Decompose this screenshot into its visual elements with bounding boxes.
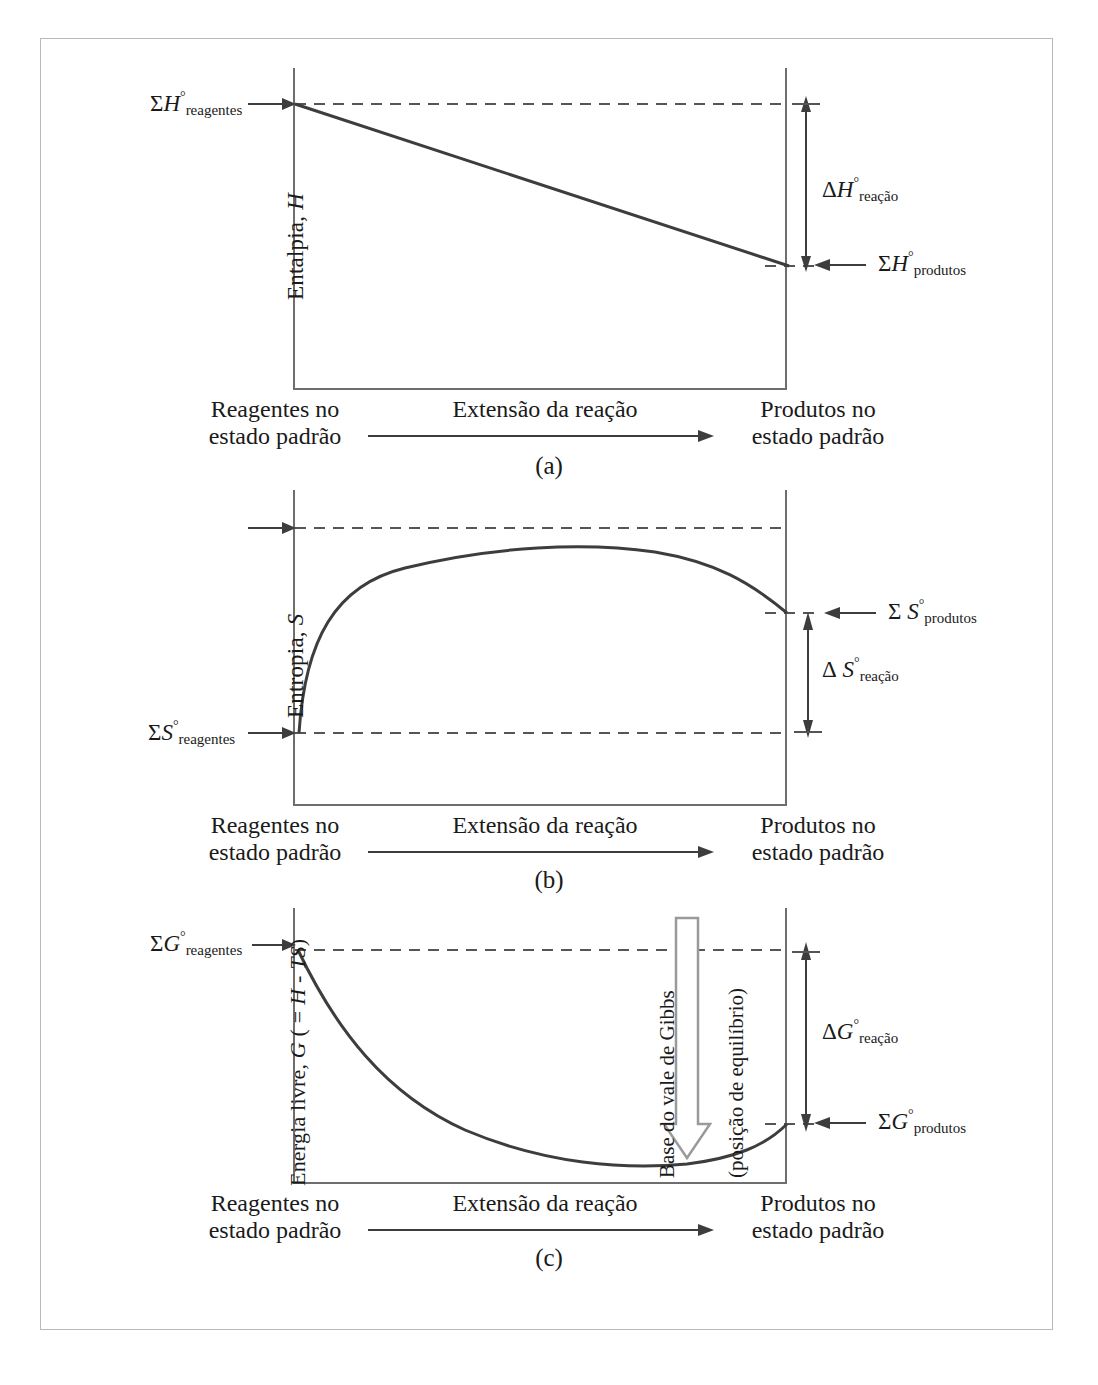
plot-lines-b	[295, 490, 789, 806]
panel-letter-c: (c)	[0, 1244, 1098, 1272]
panel-letter-b: (b)	[0, 866, 1098, 894]
plot-area-a	[293, 68, 787, 390]
sum-g-reagents-label: ΣG°reagentes	[150, 930, 242, 957]
y-axis-label-a: Entalpia, H	[283, 193, 309, 300]
plot-area-b	[293, 490, 787, 806]
sum-h-reagents-label: ΣH°reagentes	[150, 90, 242, 117]
sum-s-reagents-label: ΣS°reagentes	[148, 719, 235, 746]
arrow-to-reagent-level-a	[248, 95, 298, 115]
axis-caption-mid-b: Extensão da reação	[405, 812, 685, 839]
arrow-to-product-level-b	[820, 604, 880, 624]
axis-caption-right-c: Produtos no estado padrão	[718, 1190, 918, 1244]
gibbs-valley-label: Base do vale de Gibbs	[655, 990, 680, 1178]
sum-g-products-label: ΣG°produtos	[878, 1108, 966, 1135]
axis-caption-mid-c: Extensão da reação	[405, 1190, 685, 1217]
arrow-to-product-level-c	[810, 1114, 870, 1134]
y-axis-label-b: Entropia, S	[283, 614, 309, 718]
equilibrium-position-label: (posição de equilíbrio)	[724, 988, 749, 1178]
axis-caption-left-a: Reagentes no estado padrão	[175, 396, 375, 450]
sum-s-products-label: Σ S°produtos	[888, 598, 977, 625]
plot-lines-a	[295, 68, 789, 390]
extent-arrow-c	[368, 1222, 718, 1238]
entropy-curve	[299, 547, 787, 733]
axis-caption-right-b: Produtos no estado padrão	[718, 812, 918, 866]
sum-h-products-label: ΣH°produtos	[878, 250, 966, 277]
arrow-to-product-level-a	[810, 256, 870, 276]
arrow-upper-level-b	[248, 519, 298, 539]
extent-arrow-b	[368, 844, 718, 860]
extent-arrow-a	[368, 428, 718, 444]
enthalpy-curve	[295, 104, 789, 266]
axis-caption-mid-a: Extensão da reação	[405, 396, 685, 423]
delta-s-label: Δ S°reação	[822, 656, 899, 683]
arrow-to-reagent-level-b	[248, 724, 298, 744]
delta-h-label: ΔH°reação	[822, 176, 898, 203]
y-axis-label-c: Energia livre, G ( = H - TS)	[285, 939, 311, 1186]
axis-caption-left-b: Reagentes no estado padrão	[175, 812, 375, 866]
panel-letter-a: (a)	[0, 452, 1098, 480]
axis-caption-left-c: Reagentes no estado padrão	[175, 1190, 375, 1244]
delta-g-label: ΔG°reação	[822, 1018, 898, 1045]
axis-caption-right-a: Produtos no estado padrão	[718, 396, 918, 450]
plot-lines-c	[295, 908, 789, 1184]
